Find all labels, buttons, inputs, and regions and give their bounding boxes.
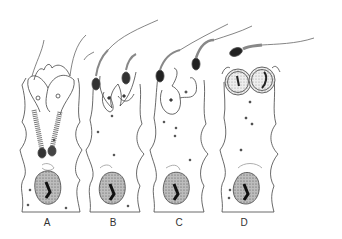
panel-label-c: C bbox=[171, 217, 187, 228]
diagram-illustration bbox=[0, 0, 342, 239]
cell-a bbox=[20, 35, 86, 212]
panel-label-d: D bbox=[236, 217, 252, 228]
cell-b bbox=[84, 20, 158, 212]
panel-label-a: A bbox=[39, 217, 55, 228]
cell-d bbox=[220, 38, 314, 212]
panel-label-b: B bbox=[105, 217, 121, 228]
